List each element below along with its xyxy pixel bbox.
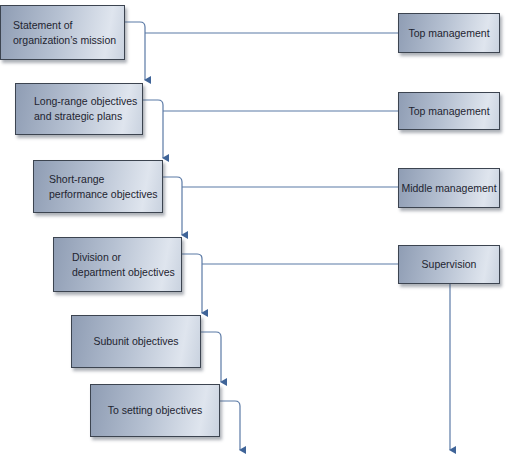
box-organization-mission: Statement of organization’s mission xyxy=(0,5,125,60)
box-label: Long-range objectives and strategic plan… xyxy=(34,94,137,124)
box-supervision: Supervision xyxy=(398,245,500,284)
box-short-range-objectives: Short-range performance objectives xyxy=(33,160,163,213)
box-top-management-2: Top management xyxy=(398,92,500,130)
box-subunit-objectives: Subunit objectives xyxy=(71,315,201,368)
box-label: Subunit objectives xyxy=(93,334,178,349)
box-middle-management: Middle management xyxy=(398,168,500,208)
connector-lines xyxy=(0,0,517,467)
box-label: Statement of organization’s mission xyxy=(13,18,116,48)
box-label: Top management xyxy=(408,26,489,41)
box-label: Supervision xyxy=(422,257,477,272)
box-top-management-1: Top management xyxy=(398,13,500,53)
box-label: Top management xyxy=(408,104,489,119)
box-label: To setting objectives xyxy=(108,403,203,418)
box-label: Middle management xyxy=(401,181,496,196)
box-label: Short-range performance objectives xyxy=(49,172,158,202)
box-setting-objectives: To setting objectives xyxy=(90,384,220,437)
box-division-objectives: Division or department objectives xyxy=(53,237,182,292)
box-label: Division or department objectives xyxy=(72,250,175,280)
box-long-range-objectives: Long-range objectives and strategic plan… xyxy=(15,83,143,135)
